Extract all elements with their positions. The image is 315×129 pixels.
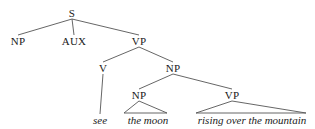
edge-vp1-v bbox=[103, 47, 139, 62]
node-np3: NP bbox=[132, 90, 146, 101]
node-vp2: VP bbox=[225, 90, 239, 101]
node-s: S bbox=[69, 8, 75, 19]
tree-edges bbox=[0, 0, 315, 129]
edge-s-aux bbox=[72, 19, 74, 35]
syntax-tree: SNPAUXVPVNPNPVPseethe moonrising over th… bbox=[0, 0, 315, 129]
terminal-w_moon: the moon bbox=[128, 115, 169, 126]
edge-np2-vp2 bbox=[173, 74, 232, 89]
edge-np2-np3 bbox=[139, 74, 173, 89]
edge-s-vp1 bbox=[72, 19, 139, 35]
node-vp1: VP bbox=[132, 36, 146, 47]
edge-s-np1 bbox=[18, 19, 72, 35]
edge-vp1-np2 bbox=[139, 47, 173, 62]
triangle-np3 bbox=[124, 101, 167, 113]
triangle-vp2 bbox=[196, 101, 306, 113]
node-v: V bbox=[99, 63, 107, 74]
node-aux: AUX bbox=[62, 36, 86, 47]
node-np2: NP bbox=[166, 63, 180, 74]
edge-v-w_see bbox=[100, 74, 103, 114]
terminal-w_see: see bbox=[93, 115, 107, 126]
node-np1: NP bbox=[11, 36, 25, 47]
terminal-w_rising: rising over the mountain bbox=[198, 115, 306, 126]
